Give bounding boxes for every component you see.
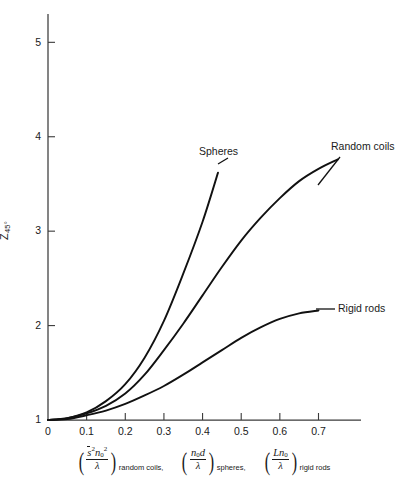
annotation-group: Spheres Random coils Rigid rods (199, 140, 395, 314)
y-tick-label: 1 (35, 413, 41, 425)
x-axis-term-random-coils: ( s2n02 λ ) random coils, (77, 446, 164, 473)
x-tick-label: 0.1 (79, 425, 94, 437)
left-paren-icon: ( (78, 451, 83, 473)
x-tick-label: 0.6 (273, 425, 288, 437)
x-tick-label: 0 (45, 425, 51, 437)
y-axis-label-subscript: 45° (3, 221, 12, 233)
fraction-denominator: λ (190, 459, 206, 473)
y-axis-label: Z45° (0, 221, 12, 240)
fraction-denominator: λ (272, 459, 289, 473)
fraction-numerator: Ln0 (272, 447, 289, 460)
right-paren-icon: ) (209, 451, 214, 473)
series-group (48, 159, 338, 420)
y-tick-label: 2 (35, 319, 41, 331)
fraction-random-coils: s2n02 λ (85, 446, 109, 473)
left-paren-icon: ( (182, 451, 187, 473)
y-tick-label: 5 (35, 36, 41, 48)
fraction-numerator: n0d (190, 447, 206, 460)
x-axis-term-rigid-rods: ( Ln0 λ ) rigid rods (263, 447, 331, 473)
series-label-random-coils: Random coils (331, 140, 395, 152)
chart-figure: 12345 00.10.20.30.40.50.60.7 Spheres Ran… (0, 0, 407, 490)
y-axis-label-base: Z (0, 233, 10, 240)
x-tick-group: 00.10.20.30.40.50.60.7 (45, 413, 326, 437)
s-bar-icon: s (87, 447, 91, 459)
right-paren-icon: ) (291, 451, 296, 473)
x-tick-label: 0.7 (311, 425, 326, 437)
x-tick-label: 0.5 (234, 425, 249, 437)
fraction-numerator: s2n02 (86, 446, 108, 459)
spheres-leader-line (218, 158, 228, 164)
series-curve-rigid-rods (48, 310, 318, 420)
series-curve-spheres (48, 173, 218, 420)
series-label-spheres: Spheres (199, 145, 238, 157)
random-coils-leader-line (318, 157, 340, 185)
x-axis-label: ( s2n02 λ ) random coils, ( n0d λ ) sphe… (0, 446, 407, 473)
y-tick-label: 4 (35, 130, 41, 142)
left-paren-icon: ( (264, 451, 269, 473)
series-label-rigid-rods: Rigid rods (338, 302, 385, 314)
y-tick-label: 3 (35, 224, 41, 236)
x-axis-term-spheres: ( n0d λ ) spheres, (180, 447, 245, 473)
fraction-rigid-rods: Ln0 λ (271, 447, 290, 473)
x-tick-label: 0.3 (157, 425, 172, 437)
term-subscript-rigid-rods: rigid rods (300, 463, 331, 473)
fraction-spheres: n0d λ (189, 447, 207, 473)
x-tick-label: 0.2 (118, 425, 133, 437)
fraction-denominator: λ (86, 459, 108, 473)
term-subscript-spheres: spheres, (217, 463, 246, 473)
y-tick-group: 12345 (35, 36, 55, 426)
series-curve-random-coils (48, 159, 338, 420)
term-subscript-random-coils: random coils, (119, 463, 164, 473)
x-tick-label: 0.4 (195, 425, 210, 437)
plot-canvas: 12345 00.10.20.30.40.50.60.7 Spheres Ran… (0, 0, 407, 490)
right-paren-icon: ) (111, 451, 116, 473)
